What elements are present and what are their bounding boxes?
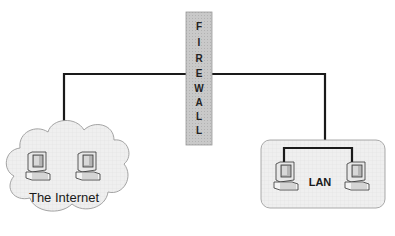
firewall-lan-link	[212, 74, 325, 148]
lan-label: LAN	[309, 176, 332, 188]
firewall-letter: L	[196, 125, 202, 136]
firewall: F I R E W A L L	[186, 12, 212, 145]
lan-group: LAN	[261, 140, 385, 208]
computer-icon	[274, 162, 298, 190]
firewall-letter: R	[195, 53, 203, 64]
firewall-letter: A	[195, 97, 202, 108]
computer-icon	[345, 162, 369, 190]
internet-cloud: The Internet	[6, 120, 129, 211]
internet-firewall-link	[64, 74, 186, 123]
firewall-letter: W	[194, 83, 204, 94]
network-diagram: F I R E W A L L The Internet LAN	[0, 0, 395, 236]
firewall-letter: I	[198, 37, 201, 48]
firewall-letter: F	[196, 21, 202, 32]
internet-label: The Internet	[29, 190, 99, 205]
firewall-letter: L	[196, 111, 202, 122]
firewall-letter: E	[196, 68, 203, 79]
